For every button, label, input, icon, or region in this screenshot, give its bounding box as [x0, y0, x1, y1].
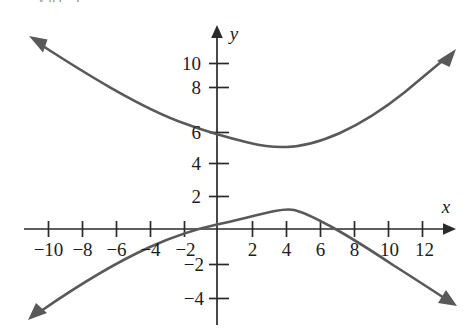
- x-tick-label-2: 2: [248, 239, 258, 260]
- x-axis-right-arrowhead: [443, 223, 456, 235]
- clipped-header-text: y p ( , ),: [38, 0, 83, 2]
- x-tick-label--4: −4: [140, 239, 161, 260]
- upward-parabola-path: [41, 45, 447, 148]
- series-downward-parabola: [28, 209, 457, 320]
- x-tick-label-10: 10: [380, 239, 399, 260]
- coordinate-plane-svg: −10 −8 −6 −4 −2 2 4 6 8 10 12 10 8 6 4 2…: [0, 0, 470, 330]
- y-tick-label-6: 6: [192, 122, 202, 143]
- x-tick-label--10: −10: [34, 239, 64, 260]
- graph-figure: y p ( , ),: [0, 0, 470, 330]
- y-tick-label-8: 8: [192, 77, 202, 98]
- upward-parabola-left-arrowhead: [29, 36, 48, 53]
- x-tick-label-6: 6: [316, 239, 326, 260]
- x-tick-label--6: −6: [106, 239, 126, 260]
- y-tick-label-4: 4: [192, 153, 202, 174]
- x-tick-label--8: −8: [72, 239, 92, 260]
- y-axis-up-arrowhead: [211, 25, 223, 38]
- x-tick-label-4: 4: [282, 239, 292, 260]
- y-tick-label-10: 10: [182, 53, 201, 74]
- x-axis-label: x: [441, 196, 451, 217]
- y-axis: [209, 25, 229, 325]
- series-upward-parabola: [29, 36, 456, 147]
- x-tick-label-8: 8: [350, 239, 360, 260]
- y-tick-label-2: 2: [192, 186, 202, 207]
- y-tick-labels: 10 8 6 4 2 −2 −4: [182, 53, 204, 309]
- y-tick-label--2: −2: [184, 254, 204, 275]
- x-tick-label-12: 12: [415, 239, 434, 260]
- downward-parabola-path: [41, 209, 445, 311]
- y-tick-label--4: −4: [184, 288, 205, 309]
- x-axis: [24, 221, 456, 237]
- y-axis-label: y: [228, 23, 239, 44]
- downward-parabola-left-arrowhead: [28, 303, 47, 320]
- downward-parabola-right-arrowhead: [438, 290, 457, 306]
- x-tick-labels: −10 −8 −6 −4 −2 2 4 6 8 10 12: [34, 239, 434, 260]
